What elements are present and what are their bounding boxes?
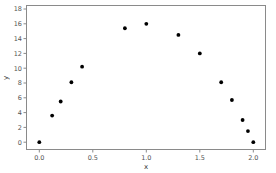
- y-tick-label: 16: [14, 20, 22, 28]
- data-point: [144, 22, 148, 26]
- plot-frame: [27, 6, 266, 150]
- x-tick-label: 1.0: [141, 154, 151, 162]
- x-axis-ticks: 0.00.51.01.52.0: [34, 150, 258, 162]
- data-point: [241, 118, 245, 122]
- data-point: [37, 140, 41, 144]
- data-point: [80, 65, 84, 69]
- y-tick-label: 6: [18, 94, 22, 102]
- y-tick-label: 2: [18, 124, 22, 132]
- data-point: [219, 80, 223, 84]
- data-point: [50, 114, 54, 118]
- data-point: [198, 52, 202, 56]
- data-point: [70, 80, 74, 84]
- y-tick-label: 14: [14, 35, 22, 43]
- y-tick-label: 10: [14, 65, 22, 73]
- x-axis-label: x: [144, 163, 148, 171]
- data-point: [59, 100, 63, 104]
- scatter-chart: 024681012141618 0.00.51.01.52.0 x y: [0, 0, 276, 173]
- y-axis-label: y: [2, 76, 10, 80]
- y-tick-label: 18: [14, 5, 22, 13]
- y-tick-label: 4: [18, 109, 22, 117]
- data-points: [37, 22, 255, 144]
- data-point: [246, 129, 250, 133]
- data-point: [251, 140, 255, 144]
- y-tick-label: 0: [18, 139, 22, 147]
- data-point: [230, 98, 234, 102]
- data-point: [123, 26, 127, 30]
- data-point: [177, 33, 181, 37]
- x-tick-label: 0.5: [88, 154, 98, 162]
- x-tick-label: 2.0: [248, 154, 258, 162]
- x-tick-label: 0.0: [34, 154, 44, 162]
- y-tick-label: 12: [14, 50, 22, 58]
- x-tick-label: 1.5: [195, 154, 205, 162]
- y-tick-label: 8: [18, 79, 22, 87]
- y-axis-ticks: 024681012141618: [14, 5, 27, 146]
